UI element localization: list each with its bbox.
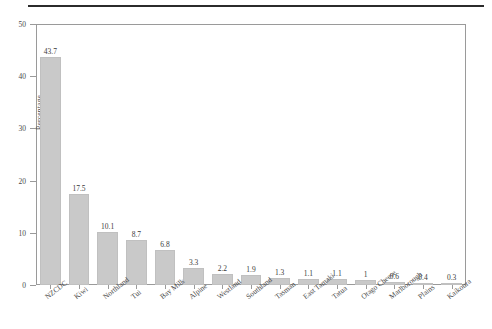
y-axis-tick-mark [30,181,36,182]
bar-value-label: 1.9 [246,265,255,274]
bar-value-label: 2.2 [218,264,227,273]
y-axis-tick-label: 50 [0,20,26,29]
top-horizontal-rule [28,5,484,7]
bar-value-label: 1 [364,270,368,279]
bar-value-label: 6.8 [160,240,169,249]
bar [155,250,176,285]
y-axis-tick-label: 10 [0,228,26,237]
bar [69,194,90,285]
bar-value-label: 17.5 [72,184,85,193]
x-axis-tick-label: Plains [416,283,436,301]
x-axis-tick-label: Tatua [330,284,349,301]
x-axis-tick-label: Tui [130,288,144,301]
y-axis-tick-label: 40 [0,72,26,81]
bar-value-label: 43.7 [44,47,57,56]
bar-value-label: 3.3 [189,258,198,267]
bar-value-label: 8.7 [132,230,141,239]
x-axis-tick-label: Kiwi [72,285,89,301]
y-axis-tick-mark [30,24,36,25]
y-axis-tick-label: 20 [0,176,26,185]
y-axis-tick-mark [30,233,36,234]
bar [97,232,118,285]
y-axis-tick-label: 30 [0,124,26,133]
bar-value-label: 1.1 [304,269,313,278]
y-axis-tick-mark [30,128,36,129]
y-axis-tick-mark [30,76,36,77]
y-axis-tick-mark [30,285,36,286]
bar-value-label: 0.3 [447,273,456,282]
bar-value-label: 1.3 [275,268,284,277]
bar-chart-figure: Percentage 01020304050 43.717.510.18.76.… [0,0,492,329]
bar-value-label: 10.1 [101,222,114,231]
y-axis-tick-label: 0 [0,281,26,290]
bar [40,57,61,285]
bar [126,240,147,285]
